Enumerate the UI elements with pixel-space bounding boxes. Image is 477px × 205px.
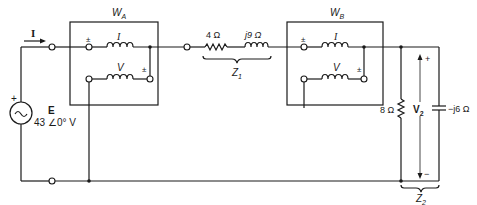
wattmeter-b: WB ± I V ±	[287, 7, 439, 108]
line-impedance: 4 Ω j9 Ω Z1	[184, 30, 301, 80]
svg-text:V: V	[333, 62, 341, 73]
source-plus-sign: +	[11, 93, 17, 104]
voltage-coil-a-icon	[107, 75, 133, 80]
svg-text:8 Ω: 8 Ω	[380, 105, 395, 115]
wattmeter-a-label: WA	[112, 7, 126, 20]
z2-brace	[401, 185, 439, 192]
svg-text:±: ±	[142, 65, 147, 74]
current-coil-a-icon	[107, 43, 133, 48]
resistor-8-ohm-icon	[398, 99, 404, 118]
svg-text:I: I	[116, 31, 121, 42]
z2-label: Z2	[415, 193, 426, 205]
svg-text:j9 Ω: j9 Ω	[244, 30, 262, 40]
z1-label: Z1	[231, 67, 242, 80]
input-terminal-bottom	[49, 178, 55, 184]
svg-text:+: +	[425, 54, 430, 64]
sine-wave-icon	[15, 112, 27, 117]
svg-text:V: V	[117, 62, 125, 73]
wattmeter-b-label: WB	[330, 7, 344, 20]
svg-text:−: −	[424, 169, 429, 179]
inductor-j9-icon	[245, 43, 268, 48]
current-label: I	[31, 27, 35, 39]
circuit-diagram: + E 43 ∠0° V I WA ± I V ±	[0, 0, 477, 205]
wattmeter-a: WA ± I V ±	[55, 7, 187, 181]
svg-text:±: ±	[86, 35, 91, 44]
source-label: E	[48, 105, 55, 116]
wattmeter-a-box	[70, 22, 158, 105]
svg-text:−j6 Ω: −j6 Ω	[448, 104, 470, 114]
source-value: 43 ∠0° V	[34, 117, 76, 128]
svg-text:I: I	[333, 31, 338, 42]
input-terminal-top	[49, 44, 55, 50]
current-arrow: I	[24, 27, 46, 44]
current-coil-b-icon	[322, 43, 348, 48]
resistor-4-ohm-icon	[205, 44, 227, 50]
svg-text:±: ±	[357, 65, 362, 74]
z1-brace	[203, 56, 271, 63]
svg-text:±: ±	[301, 35, 306, 44]
source-branch: + E 43 ∠0° V	[10, 47, 76, 181]
svg-text:4 Ω: 4 Ω	[206, 30, 221, 40]
voltage-coil-b-icon	[322, 75, 348, 80]
